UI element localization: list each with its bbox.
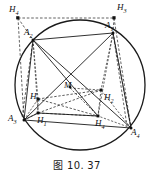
label-A3-sub: 3 bbox=[14, 118, 17, 125]
marker-H3-outer bbox=[112, 16, 115, 19]
label-H1-inner: H1 bbox=[37, 116, 47, 127]
label-H3-outer-sub: 3 bbox=[124, 7, 127, 14]
figure-caption: 图 10. 37 bbox=[0, 157, 154, 172]
marker-H2-inner bbox=[100, 89, 103, 92]
marker-H1-inner bbox=[37, 112, 40, 115]
label-H1-inner-sub: 1 bbox=[44, 120, 47, 127]
label-H4-inner-sub: 4 bbox=[102, 123, 105, 130]
marker-H4-outer bbox=[16, 16, 19, 19]
marker-H4-inner bbox=[97, 115, 100, 118]
label-H3-inner: H3 bbox=[30, 92, 40, 103]
diagonal-A1-A3 bbox=[24, 33, 113, 120]
segment-A1-H2 bbox=[101, 33, 113, 90]
outer-dashed-construction bbox=[18, 18, 131, 128]
label-A3: A3 bbox=[8, 114, 17, 125]
label-A4: A4 bbox=[131, 128, 140, 139]
inner-dashed-orthocentre-quad bbox=[38, 90, 101, 116]
label-A1-sub: 1 bbox=[111, 25, 114, 32]
label-M-text: M bbox=[64, 80, 72, 90]
label-A2-sub: 2 bbox=[30, 32, 33, 39]
marker-A3 bbox=[23, 119, 26, 122]
label-A2: A2 bbox=[24, 28, 33, 39]
label-H4-outer: H4 bbox=[9, 5, 19, 16]
label-H4-outer-sub: 4 bbox=[16, 9, 19, 16]
chord-A2-H4inner bbox=[33, 40, 98, 116]
label-A4-sub: 4 bbox=[137, 132, 140, 139]
label-H3-outer: H3 bbox=[117, 3, 127, 14]
label-H4-inner: H4 bbox=[95, 119, 105, 130]
label-H2-inner: H2 bbox=[104, 93, 114, 104]
side-A2-A3 bbox=[24, 40, 33, 120]
label-M: M bbox=[64, 81, 72, 90]
point-markers bbox=[16, 16, 132, 129]
chord-H1-H4-solid bbox=[38, 113, 98, 116]
side-A2-A1 bbox=[33, 33, 113, 40]
segment-H3out-A4 bbox=[114, 18, 131, 128]
segment-A1-H3out-drop bbox=[113, 33, 127, 126]
label-H3-inner-sub: 3 bbox=[37, 96, 40, 103]
label-A1: A1 bbox=[105, 21, 114, 32]
figure-container: H4 H3 A2 A1 A3 A4 M H3 H1 H2 H4 图 10. 37 bbox=[0, 0, 154, 174]
label-H2-inner-sub: 2 bbox=[111, 97, 114, 104]
